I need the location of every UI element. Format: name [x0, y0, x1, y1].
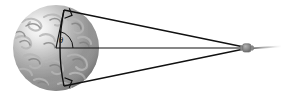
satellite-panel-right — [251, 46, 254, 50]
satellite-geometry-figure: θ — [0, 0, 283, 96]
orbit-trail — [251, 46, 281, 50]
diagram-root: θ — [0, 0, 283, 96]
satellite-bus — [243, 44, 252, 52]
satellite-panel-left — [240, 46, 243, 50]
central-angle-label: θ — [59, 35, 64, 45]
satellite-body — [240, 44, 281, 52]
